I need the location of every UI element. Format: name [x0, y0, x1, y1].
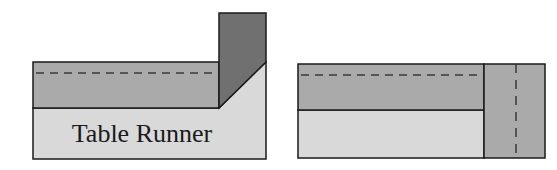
folded-band [33, 62, 219, 108]
left-figure: Table Runner [33, 13, 266, 159]
right-figure [298, 64, 545, 158]
end-strip [484, 64, 545, 158]
runner-base [298, 110, 484, 158]
folding-diagram: Table Runner [0, 0, 557, 170]
table-runner-label: Table Runner [72, 119, 213, 148]
folded-band [298, 64, 484, 110]
